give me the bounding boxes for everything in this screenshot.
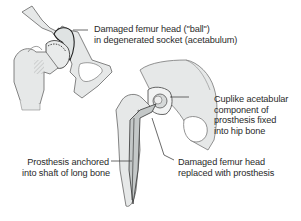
hip-before-figure [14,6,112,110]
label-cup-component: Cuplike acetabular component of prosthes… [214,94,288,136]
label-prosthesis-anchored: Prosthesis anchored into shaft of long b… [22,157,109,178]
hip-after-figure [116,60,217,206]
label-damaged-femur-head: Damaged femur head ("ball") in degenerat… [94,24,237,45]
hip-replacement-diagram: Damaged femur head ("ball") in degenerat… [0,0,301,221]
leader-femur-head-replaced [152,118,174,160]
label-femur-head-replaced: Damaged femur head replaced with prosthe… [178,157,274,178]
